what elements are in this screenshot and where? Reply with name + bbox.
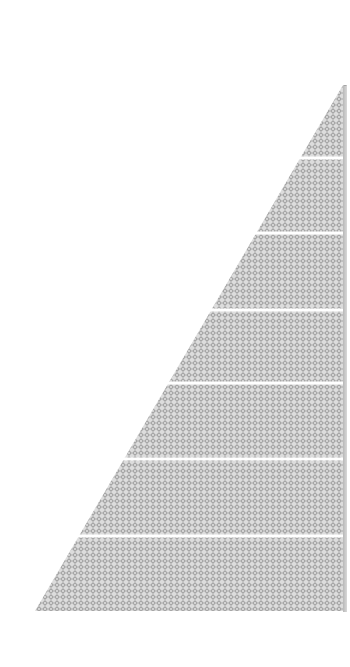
pyramid-segment-6 (0, 461, 350, 535)
pyramid-right-edge (343, 86, 347, 612)
pyramid-segment-3 (0, 235, 350, 309)
pyramid-graphic (0, 0, 350, 667)
pyramid-chart (0, 0, 350, 667)
pyramid-segment-4 (0, 312, 350, 382)
pyramid-segment-5 (0, 385, 350, 458)
pyramid-segment-2 (0, 160, 350, 232)
pyramid-segment-7 (0, 538, 350, 612)
pyramid-segment-1 (0, 85, 350, 157)
